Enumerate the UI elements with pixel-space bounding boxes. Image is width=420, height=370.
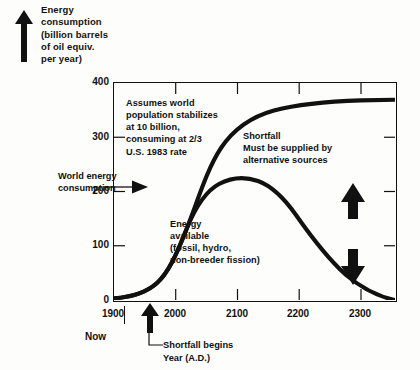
- assumptions-note: Assumes world population stabilizes at 1…: [126, 97, 218, 158]
- energy-available-note: Energy available (fossil, hydro, non-bre…: [170, 218, 260, 267]
- y-axis-label: Energy consumption (billion barrels of o…: [41, 4, 108, 66]
- bottom-ticks: [176, 289, 361, 300]
- right-ticks: [384, 137, 395, 246]
- leader-arrow-icon: [104, 180, 149, 198]
- y-tick-400: 400: [75, 76, 109, 87]
- x-tick-2000: 2000: [155, 308, 195, 319]
- energy-shortfall-chart: Energy consumption (billion barrels of o…: [0, 0, 420, 370]
- now-label: Now: [85, 331, 106, 342]
- y-axis-caption-block: Energy consumption (billion barrels of o…: [14, 4, 108, 66]
- shortfall-begins-label: Shortfall begins Year (A.D.): [163, 339, 233, 364]
- now-tick-stem: [124, 306, 125, 324]
- y-tick-100: 100: [75, 239, 109, 250]
- up-arrow-icon: [14, 10, 34, 62]
- y-tick-0: 0: [75, 294, 109, 305]
- shortfall-note: Shortfall Must be supplied by alternativ…: [243, 130, 332, 166]
- x-tick-1900: 1900: [93, 308, 133, 319]
- top-ticks: [176, 83, 361, 94]
- shortfall-double-arrow-icon: [340, 183, 366, 289]
- x-tick-2300: 2300: [340, 308, 380, 319]
- y-tick-300: 300: [75, 131, 109, 142]
- shortfall-begins-arrow-icon: [140, 303, 160, 337]
- x-tick-2100: 2100: [217, 308, 257, 319]
- shortfall-begins-elbow-icon: [148, 333, 164, 351]
- x-tick-2200: 2200: [278, 308, 318, 319]
